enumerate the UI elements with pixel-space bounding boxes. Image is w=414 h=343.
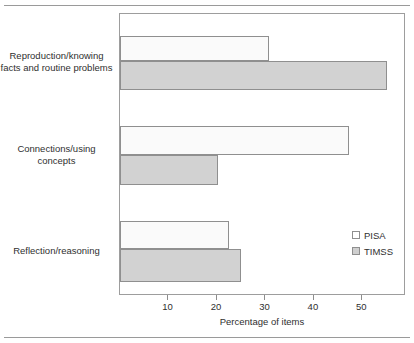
x-axis-title: Percentage of items [119, 316, 405, 327]
bar-timss-3 [120, 249, 241, 282]
bar-pisa-2 [120, 126, 349, 155]
x-tick-label-30: 30 [249, 301, 279, 312]
x-tick-label-20: 20 [201, 301, 231, 312]
top-divider-rule [4, 5, 410, 6]
x-tick-label-50: 50 [346, 301, 376, 312]
category-label-3: Reflection/reasoning [0, 245, 113, 257]
x-tick-label-40: 40 [298, 301, 328, 312]
chart-figure: Reproduction/knowingfacts and routine pr… [0, 0, 414, 343]
bar-timss-1 [120, 61, 387, 90]
bar-timss-2 [120, 155, 218, 185]
legend-label-pisa: PISA [364, 230, 386, 241]
category-label-1-line-2: facts and routine problems [0, 62, 113, 74]
category-label-2-line-1: Connections/using [0, 143, 113, 155]
x-tick-label-10: 10 [152, 301, 182, 312]
legend-swatch-pisa [352, 231, 360, 239]
x-tick-40 [313, 295, 314, 300]
category-label-1: Reproduction/knowingfacts and routine pr… [0, 50, 113, 74]
bottom-divider-rule [4, 337, 410, 338]
category-label-1-line-1: Reproduction/knowing [0, 50, 113, 62]
x-tick-10 [167, 295, 168, 300]
x-tick-20 [216, 295, 217, 300]
x-tick-30 [264, 295, 265, 300]
category-label-2-line-2: concepts [0, 155, 113, 167]
x-tick-50 [361, 295, 362, 300]
category-label-2: Connections/usingconcepts [0, 143, 113, 167]
category-label-3-line-1: Reflection/reasoning [0, 245, 113, 257]
legend-item-pisa[interactable]: PISA [352, 228, 393, 242]
bar-pisa-1 [120, 36, 269, 61]
legend-swatch-timss [352, 247, 360, 255]
bar-pisa-3 [120, 221, 229, 249]
legend-item-timss[interactable]: TIMSS [352, 244, 393, 258]
legend-label-timss: TIMSS [364, 246, 393, 257]
chart-legend: PISA TIMSS [352, 228, 393, 260]
